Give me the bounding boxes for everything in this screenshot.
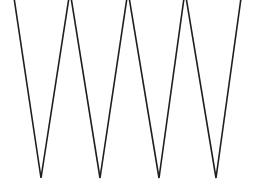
figure-background <box>0 0 260 179</box>
zigzag-figure <box>0 0 260 179</box>
figure-canvas <box>0 0 260 179</box>
